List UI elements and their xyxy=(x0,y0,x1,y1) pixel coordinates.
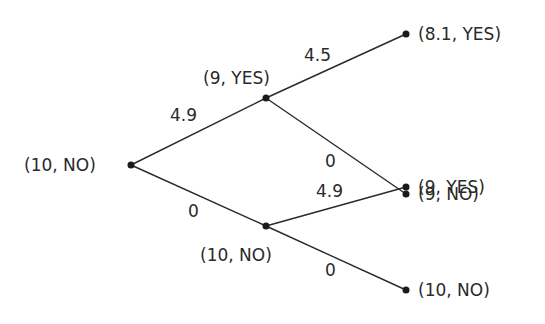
label-up: (9, YES) xyxy=(203,68,270,88)
node-du xyxy=(403,184,410,191)
node-root xyxy=(128,162,135,169)
label-uu: (8.1, YES) xyxy=(418,24,501,44)
weight-root-down: 0 xyxy=(188,201,199,221)
label-root: (10, NO) xyxy=(24,155,96,175)
weight-up-uu: 4.5 xyxy=(304,45,331,65)
weight-down-dd: 0 xyxy=(325,260,336,280)
decision-tree-diagram: (10, NO) (9, YES) (10, NO) (8.1, YES) (9… xyxy=(0,0,545,324)
edge-down-dd xyxy=(266,226,406,290)
node-dd xyxy=(403,287,410,294)
label-down: (10, NO) xyxy=(200,245,272,265)
node-up xyxy=(263,95,270,102)
weight-up-ud: 0 xyxy=(325,151,336,171)
node-uu xyxy=(403,31,410,38)
edge-up-uu xyxy=(266,34,406,98)
weight-down-du: 4.9 xyxy=(316,181,343,201)
edge-up-ud xyxy=(266,98,406,194)
edge-root-up xyxy=(131,98,266,165)
label-dd: (10, NO) xyxy=(418,280,490,300)
weight-root-up: 4.9 xyxy=(170,105,197,125)
label-du: (9, YES) xyxy=(418,177,485,197)
node-ud xyxy=(403,191,410,198)
node-down xyxy=(263,223,270,230)
